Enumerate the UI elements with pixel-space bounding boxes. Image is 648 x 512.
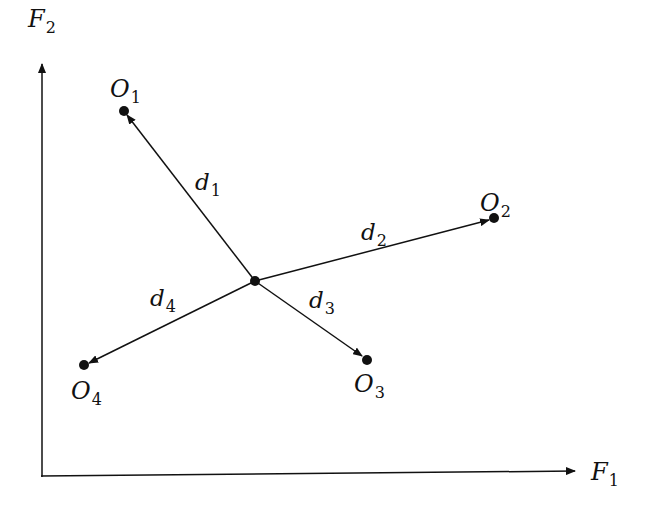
label-d1: d1 [195,169,221,200]
label-o2: O2 [480,189,511,221]
vector-d1 [127,115,255,281]
label-d4: d4 [150,285,176,316]
distance-diagram: F2 F1 O1 O2 O3 O4 d1 d2 d3 d4 [0,0,648,512]
label-o3: O3 [354,370,385,402]
label-o4: O4 [71,377,102,409]
label-d3: d3 [309,287,335,318]
vector-d4 [89,281,255,363]
y-axis-label: F2 [27,5,56,37]
x-axis [41,471,575,476]
point-o4 [79,360,89,370]
label-d2: d2 [361,219,387,250]
center-point [250,276,260,286]
label-o1: O1 [110,75,141,107]
x-axis-label: F1 [590,458,619,490]
point-o3 [362,355,372,365]
point-o1 [119,106,129,116]
